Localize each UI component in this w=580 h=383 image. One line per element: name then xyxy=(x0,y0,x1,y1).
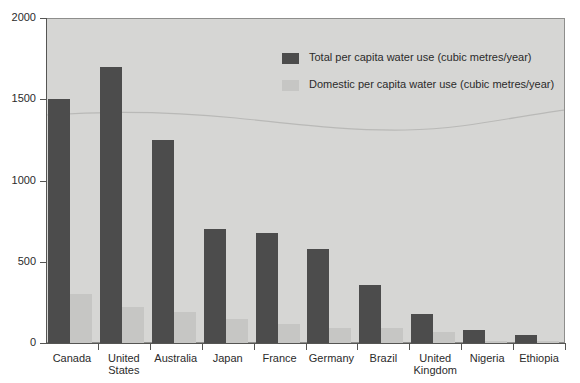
x-axis-tick xyxy=(306,344,307,350)
legend-swatch-domestic-icon xyxy=(282,80,299,91)
x-axis-tick xyxy=(461,344,462,350)
x-axis-tick xyxy=(202,344,203,350)
x-axis-tick xyxy=(513,344,514,350)
bars-layer xyxy=(46,18,565,343)
bar-domestic xyxy=(433,332,455,343)
bar-total xyxy=(411,314,433,343)
y-axis-tick-label: 0 xyxy=(0,337,36,348)
bar-chart: 0500100015002000 CanadaUnited StatesAust… xyxy=(0,0,580,383)
bar-domestic xyxy=(537,341,559,343)
y-axis-tick-label: 1500 xyxy=(0,93,36,104)
x-axis-tick xyxy=(254,344,255,350)
legend-label-total: Total per capita water use (cubic metres… xyxy=(309,50,532,65)
y-axis-tick-label: 1000 xyxy=(0,175,36,186)
x-axis-category-label: Ethiopia xyxy=(513,352,565,364)
y-axis-tick-label: 2000 xyxy=(0,12,36,23)
x-axis-category-label: Germany xyxy=(306,352,358,364)
x-axis-tick xyxy=(565,344,566,350)
bar-total xyxy=(463,330,485,343)
x-axis-category-label: Nigeria xyxy=(461,352,513,364)
bar-domestic xyxy=(278,324,300,344)
x-axis-category-label: Canada xyxy=(46,352,98,364)
legend-label-domestic: Domestic per capita water use (cubic met… xyxy=(309,77,554,92)
x-axis-tick xyxy=(150,344,151,350)
bar-domestic xyxy=(226,319,248,343)
bar-domestic xyxy=(174,312,196,343)
x-axis-category-label: United States xyxy=(98,352,150,376)
x-axis-category-label: Australia xyxy=(150,352,202,364)
bar-total xyxy=(48,99,70,343)
y-axis-tick-label: 500 xyxy=(0,256,36,267)
x-axis-category-label: Brazil xyxy=(357,352,409,364)
bar-domestic xyxy=(70,294,92,343)
x-axis-tick xyxy=(357,344,358,350)
bar-domestic xyxy=(485,341,507,343)
bar-total xyxy=(100,67,122,343)
bar-domestic xyxy=(381,328,403,343)
bar-total xyxy=(359,285,381,344)
bar-total xyxy=(307,249,329,343)
bar-total xyxy=(152,140,174,343)
bar-total xyxy=(515,335,537,343)
x-axis-category-label: Japan xyxy=(202,352,254,364)
legend-swatch-total-icon xyxy=(282,53,299,64)
bar-total xyxy=(256,233,278,344)
x-axis-category-label: United Kingdom xyxy=(409,352,461,376)
x-axis-category-label: France xyxy=(254,352,306,364)
bar-domestic xyxy=(122,307,144,343)
x-axis-tick xyxy=(98,344,99,350)
x-axis-tick xyxy=(409,344,410,350)
bar-domestic xyxy=(329,328,351,343)
bar-total xyxy=(204,229,226,343)
y-axis-tick xyxy=(40,343,47,344)
